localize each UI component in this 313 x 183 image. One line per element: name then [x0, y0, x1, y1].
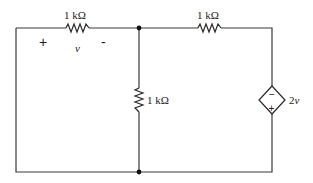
voltage-minus-sign: -	[101, 34, 106, 50]
voltage-marker: + v -	[39, 34, 106, 54]
resistor-middle-label: 1 kΩ	[147, 94, 169, 106]
node-top	[137, 26, 142, 31]
node-bottom	[137, 170, 142, 175]
dependent-voltage-source: − + 2v	[259, 86, 300, 114]
resistor-top-right-label: 1 kΩ	[197, 9, 219, 21]
source-value-label: 2v	[289, 94, 300, 106]
wire-top-right	[221, 28, 272, 86]
resistor-zigzag-icon	[135, 88, 143, 112]
source-plus-sign: +	[269, 103, 275, 114]
wires	[16, 28, 272, 172]
resistor-top-right: 1 kΩ	[197, 9, 221, 32]
voltage-plus-sign: +	[39, 34, 47, 50]
resistor-top-left-label: 1 kΩ	[64, 9, 86, 21]
voltage-name-label: v	[75, 42, 80, 54]
wire-left-bottom-right	[16, 28, 272, 172]
circuit-diagram: 1 kΩ + v - 1 kΩ 1 kΩ − + 2v	[0, 0, 313, 183]
resistor-zigzag-icon	[66, 24, 89, 32]
source-minus-sign: −	[269, 89, 275, 100]
source-value-var: v	[295, 94, 300, 106]
resistor-zigzag-icon	[198, 24, 221, 32]
resistor-top-left: 1 kΩ	[64, 9, 89, 32]
resistor-middle: 1 kΩ	[135, 88, 169, 112]
